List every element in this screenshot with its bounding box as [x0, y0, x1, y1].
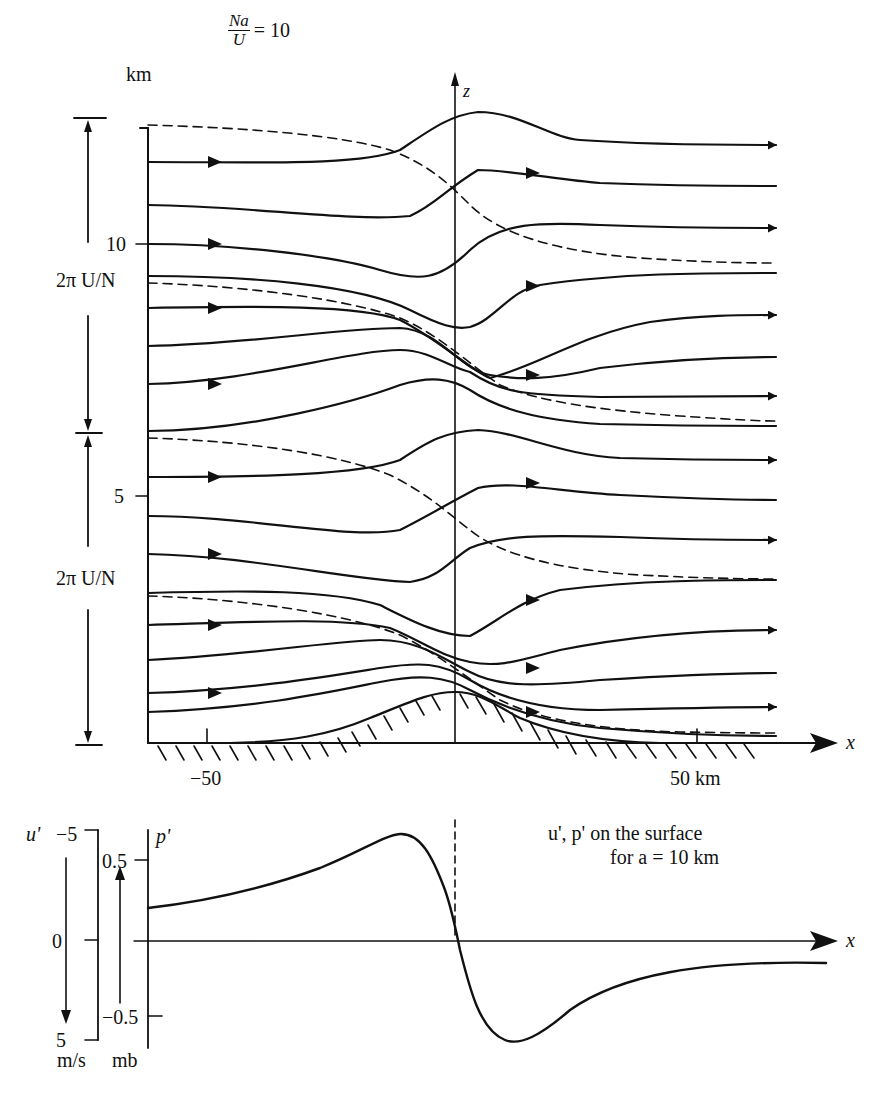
streamline: [148, 485, 776, 532]
p-tick-minus0.5: −0.5: [102, 1007, 138, 1027]
parameter-label: Na U = 10: [228, 12, 290, 49]
y-unit-label: km: [126, 64, 152, 84]
u-tick-5: 5: [56, 1030, 66, 1050]
streamline: [148, 621, 776, 664]
u-axis-label: u': [26, 824, 40, 844]
x-axis-label: x: [846, 732, 855, 752]
streamline: [148, 379, 776, 431]
param-numerator: Na: [228, 12, 250, 31]
x-tick-label-minus50: −50: [190, 768, 221, 788]
streamline: [148, 224, 776, 277]
inflow-arrows: [208, 156, 540, 718]
streamline: [148, 307, 776, 378]
streamline: [148, 536, 776, 582]
lower-caption-line1: u', p' on the surface: [548, 823, 702, 843]
streamline: [148, 170, 776, 217]
p-unit-label: mb: [112, 1050, 138, 1070]
streamline: [148, 112, 776, 162]
lower-x-axis-label: x: [846, 930, 855, 950]
surface-pressure-curve: [148, 834, 826, 1042]
mountain-wave-figure: [0, 0, 888, 1108]
streamline: [148, 430, 776, 477]
streamline: [148, 350, 776, 397]
phase-lines: [148, 125, 776, 733]
u-tick-0: 0: [52, 931, 62, 951]
streamline: [148, 664, 776, 710]
x-tick-label-50km: 50 km: [670, 768, 721, 788]
wavelength-bracket-lower: [76, 442, 102, 745]
u-tick-minus5: −5: [56, 824, 77, 844]
y-tick-label-5: 5: [114, 486, 124, 506]
param-denominator: U: [233, 31, 245, 49]
param-value: = 10: [254, 19, 290, 42]
p-axis-label: p': [156, 826, 170, 846]
y-tick-label-10: 10: [106, 234, 126, 254]
streamlines: [148, 112, 776, 736]
streamline: [148, 273, 776, 328]
wavelength-label-upper: 2π U/N: [56, 270, 116, 290]
p-tick-0.5: 0.5: [102, 851, 127, 871]
streamline: [148, 640, 776, 684]
z-axis-arrow: [451, 72, 459, 86]
z-axis-label: z: [463, 82, 470, 100]
lower-caption-line2: for a = 10 km: [610, 847, 719, 867]
terrain-profile: [230, 692, 660, 743]
u-unit-label: m/s: [57, 1050, 86, 1070]
wavelength-label-lower: 2π U/N: [56, 568, 116, 588]
streamline: [148, 580, 776, 636]
